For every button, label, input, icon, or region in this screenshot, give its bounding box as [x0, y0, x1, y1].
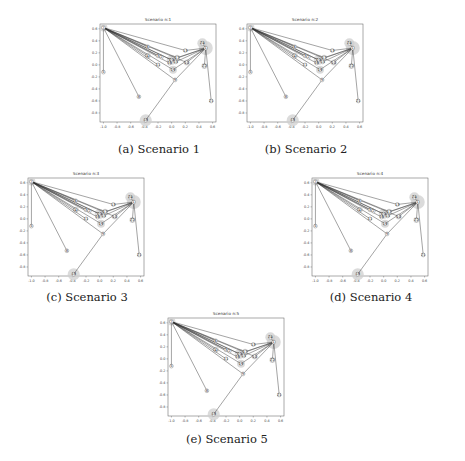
node-label: 19 — [383, 222, 388, 226]
node-label: 18 — [290, 118, 295, 122]
y-tick-label: 0.0 — [160, 357, 165, 361]
y-tick-label: 0.2 — [239, 51, 244, 55]
node-label: 11 — [84, 217, 89, 221]
node-label: 11 — [156, 63, 161, 67]
node-label: 2 — [372, 209, 374, 213]
node-label: 24 — [347, 41, 352, 45]
x-tick-label: -1.0 — [28, 279, 35, 283]
node-label: 11 — [303, 63, 308, 67]
node-label: 5 — [249, 70, 251, 74]
node-label: 22 — [349, 64, 354, 68]
node-label: 21 — [209, 99, 214, 103]
x-tick-label: -0.8 — [182, 419, 189, 423]
node-label: 16 — [379, 215, 384, 219]
y-tick-label: 0.4 — [304, 193, 309, 197]
node-label: 18 — [143, 118, 148, 122]
node-label: 18 — [71, 272, 76, 276]
x-tick-label: -1.0 — [312, 279, 319, 283]
y-tick-label: 0.4 — [160, 333, 165, 337]
axes-frame — [312, 178, 428, 276]
node-label: 21 — [137, 253, 142, 257]
subplot-a: Scenario n:1-1.0-0.8-0.6-0.4-0.20.00.20.… — [84, 10, 234, 140]
node-label: 10 — [252, 355, 257, 359]
subplot-title: Scenario n:5 — [213, 311, 240, 316]
node-label: 11 — [368, 217, 373, 221]
y-tick-label: 0.2 — [92, 51, 97, 55]
y-tick-label: -0.2 — [19, 229, 26, 233]
y-tick-label: -0.4 — [159, 381, 166, 385]
x-tick-label: 0.0 — [97, 279, 102, 283]
node-label: 10 — [396, 215, 401, 219]
node-label: 3 — [369, 208, 371, 212]
x-tick-label: 0.6 — [278, 419, 283, 423]
node-label: 24 — [128, 195, 133, 199]
subfigure-caption: (a) Scenario 1 — [84, 142, 234, 156]
y-tick-label: -0.8 — [19, 265, 26, 269]
subplot-title: Scenario n:3 — [73, 171, 100, 176]
node-label: 24 — [200, 41, 205, 45]
y-tick-label: 0.6 — [160, 321, 165, 325]
x-tick-label: -0.2 — [302, 125, 309, 129]
node-label: 10 — [184, 61, 189, 65]
y-tick-label: -0.4 — [19, 241, 26, 245]
x-tick-label: -0.2 — [155, 125, 162, 129]
x-tick-label: -0.2 — [223, 419, 230, 423]
axes-frame — [247, 24, 363, 122]
node-label: 1 — [352, 46, 354, 50]
node-label: 21 — [356, 99, 361, 103]
x-tick-label: 0.4 — [408, 279, 413, 283]
subfigure-caption: (c) Scenario 3 — [12, 290, 162, 304]
y-tick-label: -0.6 — [238, 99, 245, 103]
node-label: 1 — [273, 340, 275, 344]
y-tick-label: -0.6 — [159, 393, 166, 397]
y-tick-label: -0.4 — [303, 241, 310, 245]
axes-frame — [28, 178, 144, 276]
x-tick-label: 0.2 — [330, 125, 335, 129]
subplot-b: Scenario n:2-1.0-0.8-0.6-0.4-0.20.00.20.… — [231, 10, 381, 140]
x-tick-label: 0.0 — [237, 419, 242, 423]
y-tick-label: 0.4 — [239, 39, 244, 43]
node-label: 15 — [241, 354, 246, 358]
x-tick-label: 0.4 — [343, 125, 348, 129]
node-label: 13 — [111, 203, 116, 207]
x-tick-label: 0.6 — [422, 279, 427, 283]
node-label: 10 — [331, 61, 336, 65]
node-label: 10 — [112, 215, 117, 219]
x-tick-label: -1.0 — [168, 419, 175, 423]
y-tick-label: 0.6 — [92, 27, 97, 31]
y-tick-label: -0.6 — [19, 253, 26, 257]
y-tick-label: 0.4 — [20, 193, 25, 197]
x-tick-label: -1.0 — [247, 125, 254, 129]
x-tick-label: -0.6 — [195, 419, 202, 423]
y-tick-label: -0.2 — [238, 75, 245, 79]
node-label: 24 — [268, 335, 273, 339]
axes-frame — [168, 318, 284, 416]
node-label: 22 — [202, 64, 207, 68]
x-tick-label: -0.8 — [326, 279, 333, 283]
y-tick-label: -0.2 — [303, 229, 310, 233]
x-tick-label: 0.0 — [169, 125, 174, 129]
y-tick-label: -0.8 — [91, 111, 98, 115]
node-label: 7 — [102, 26, 104, 30]
x-tick-label: -0.6 — [339, 279, 346, 283]
y-tick-label: 0.0 — [92, 63, 97, 67]
subfigure-caption: (e) Scenario 5 — [152, 432, 302, 446]
node-label: 2 — [307, 55, 309, 59]
node-label: 7 — [170, 320, 172, 324]
node-label: 16 — [314, 61, 319, 65]
y-tick-label: 0.6 — [304, 181, 309, 185]
node-label: 2 — [88, 209, 90, 213]
x-tick-label: 0.4 — [124, 279, 129, 283]
y-tick-label: -0.2 — [91, 75, 98, 79]
node-label: 19 — [239, 362, 244, 366]
y-tick-label: -0.8 — [159, 405, 166, 409]
y-tick-label: 0.0 — [304, 217, 309, 221]
node-label: 21 — [421, 253, 426, 257]
node-label: 3 — [85, 208, 87, 212]
node-label: 13 — [330, 49, 335, 53]
x-tick-label: 0.2 — [111, 279, 116, 283]
x-tick-label: 0.2 — [183, 125, 188, 129]
y-tick-label: -0.6 — [91, 99, 98, 103]
y-tick-label: -0.6 — [303, 253, 310, 257]
x-tick-label: -0.8 — [114, 125, 121, 129]
